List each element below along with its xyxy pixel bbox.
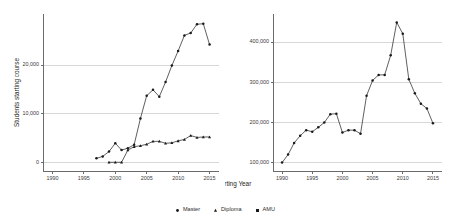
data-point-amu-2007 bbox=[383, 74, 386, 77]
data-point-amu-2006 bbox=[377, 74, 380, 77]
data-point-master-2011 bbox=[183, 34, 186, 37]
chart-panel-left: 010,00020,000199019952000200520102015Stu… bbox=[0, 0, 225, 200]
data-point-master-1999 bbox=[108, 150, 111, 153]
data-point-master-2001 bbox=[120, 149, 123, 152]
y-tick-label-1: 10,000 bbox=[23, 110, 40, 116]
legend-marker-dot-icon bbox=[175, 208, 180, 213]
chart-legend: MasterDiplomaAMU bbox=[0, 199, 450, 221]
series-line-amu bbox=[282, 22, 433, 162]
x-tick-label-5: 2015 bbox=[427, 175, 439, 181]
data-point-master-2004 bbox=[139, 117, 142, 120]
y-tick-label-2: 20,000 bbox=[23, 61, 40, 67]
right-chart-svg: 100,000200,000300,000400,000199019952000… bbox=[225, 0, 450, 200]
x-tick-label-2: 2000 bbox=[109, 175, 121, 181]
data-point-amu-2014 bbox=[426, 107, 429, 110]
data-point-master-2005 bbox=[145, 94, 148, 97]
data-point-amu-2013 bbox=[420, 102, 423, 105]
data-point-master-2010 bbox=[177, 50, 180, 53]
data-point-master-2012 bbox=[189, 32, 192, 35]
legend-item-master: Master bbox=[175, 207, 200, 213]
data-point-master-2014 bbox=[202, 22, 205, 25]
data-point-master-2013 bbox=[196, 23, 199, 26]
data-point-amu-1993 bbox=[299, 135, 302, 138]
data-point-amu-2000 bbox=[341, 131, 344, 134]
data-point-master-2000 bbox=[114, 142, 117, 145]
data-point-master-2008 bbox=[164, 81, 167, 84]
data-point-amu-1994 bbox=[305, 129, 308, 132]
y-tick-label-3: 400,000 bbox=[250, 38, 270, 44]
data-point-amu-1996 bbox=[317, 126, 320, 129]
y-tick-label-1: 200,000 bbox=[250, 119, 270, 125]
data-point-amu-2003 bbox=[359, 133, 362, 136]
data-point-amu-2012 bbox=[414, 92, 417, 95]
data-point-master-2007 bbox=[158, 95, 161, 98]
chart-panel-right: 100,000200,000300,000400,000199019952000… bbox=[225, 0, 450, 200]
legend-label: AMU bbox=[263, 207, 275, 213]
data-point-amu-1992 bbox=[293, 142, 296, 145]
y-tick-label-0: 0 bbox=[36, 159, 39, 165]
legend-label: Diploma bbox=[221, 207, 242, 213]
x-tick-label-5: 2015 bbox=[204, 175, 216, 181]
data-point-amu-2002 bbox=[353, 129, 356, 132]
x-tick-label-4: 2010 bbox=[172, 175, 184, 181]
legend-item-amu: AMU bbox=[255, 207, 275, 213]
y-tick-label-0: 100,000 bbox=[250, 159, 270, 165]
x-axis-title: Starting Year bbox=[225, 180, 252, 188]
data-point-diploma-2012 bbox=[189, 134, 192, 137]
data-point-master-2006 bbox=[152, 89, 155, 92]
data-point-amu-1999 bbox=[335, 112, 338, 115]
x-tick-label-1: 1995 bbox=[78, 175, 90, 181]
data-point-amu-2009 bbox=[395, 21, 398, 24]
series-line-diploma bbox=[109, 136, 210, 163]
figure-root: 010,00020,000199019952000200520102015Stu… bbox=[0, 0, 450, 221]
data-point-amu-1995 bbox=[311, 131, 314, 134]
data-point-master-2009 bbox=[171, 64, 174, 67]
data-point-amu-2005 bbox=[371, 79, 374, 82]
data-point-amu-2015 bbox=[432, 122, 435, 125]
data-point-amu-1998 bbox=[329, 113, 332, 116]
data-point-amu-2001 bbox=[347, 129, 350, 132]
x-tick-label-0: 1990 bbox=[276, 175, 288, 181]
x-tick-label-3: 2005 bbox=[141, 175, 153, 181]
legend-label: Master bbox=[183, 207, 200, 213]
x-tick-label-3: 2005 bbox=[367, 175, 379, 181]
data-point-amu-2010 bbox=[402, 32, 405, 35]
data-point-amu-2011 bbox=[408, 78, 411, 81]
y-axis-title: Students starting course bbox=[13, 58, 21, 127]
left-chart-svg: 010,00020,000199019952000200520102015Stu… bbox=[0, 0, 225, 200]
x-tick-label-4: 2010 bbox=[397, 175, 409, 181]
data-point-amu-1991 bbox=[287, 153, 290, 156]
data-point-master-1998 bbox=[101, 155, 104, 158]
x-tick-label-0: 1990 bbox=[46, 175, 58, 181]
x-tick-label-2: 2000 bbox=[336, 175, 348, 181]
legend-marker-square-icon bbox=[255, 208, 260, 213]
legend-marker-triangle-icon bbox=[213, 208, 218, 213]
data-point-amu-1990 bbox=[281, 161, 284, 164]
y-tick-label-2: 300,000 bbox=[250, 79, 270, 85]
data-point-amu-1997 bbox=[323, 121, 326, 124]
data-point-amu-2004 bbox=[365, 94, 368, 97]
data-point-diploma-2002 bbox=[126, 149, 129, 152]
data-point-master-2015 bbox=[208, 43, 211, 46]
legend-item-diploma: Diploma bbox=[213, 207, 242, 213]
x-tick-label-1: 1995 bbox=[306, 175, 318, 181]
data-point-master-1997 bbox=[95, 157, 98, 160]
data-point-amu-2008 bbox=[389, 54, 392, 57]
